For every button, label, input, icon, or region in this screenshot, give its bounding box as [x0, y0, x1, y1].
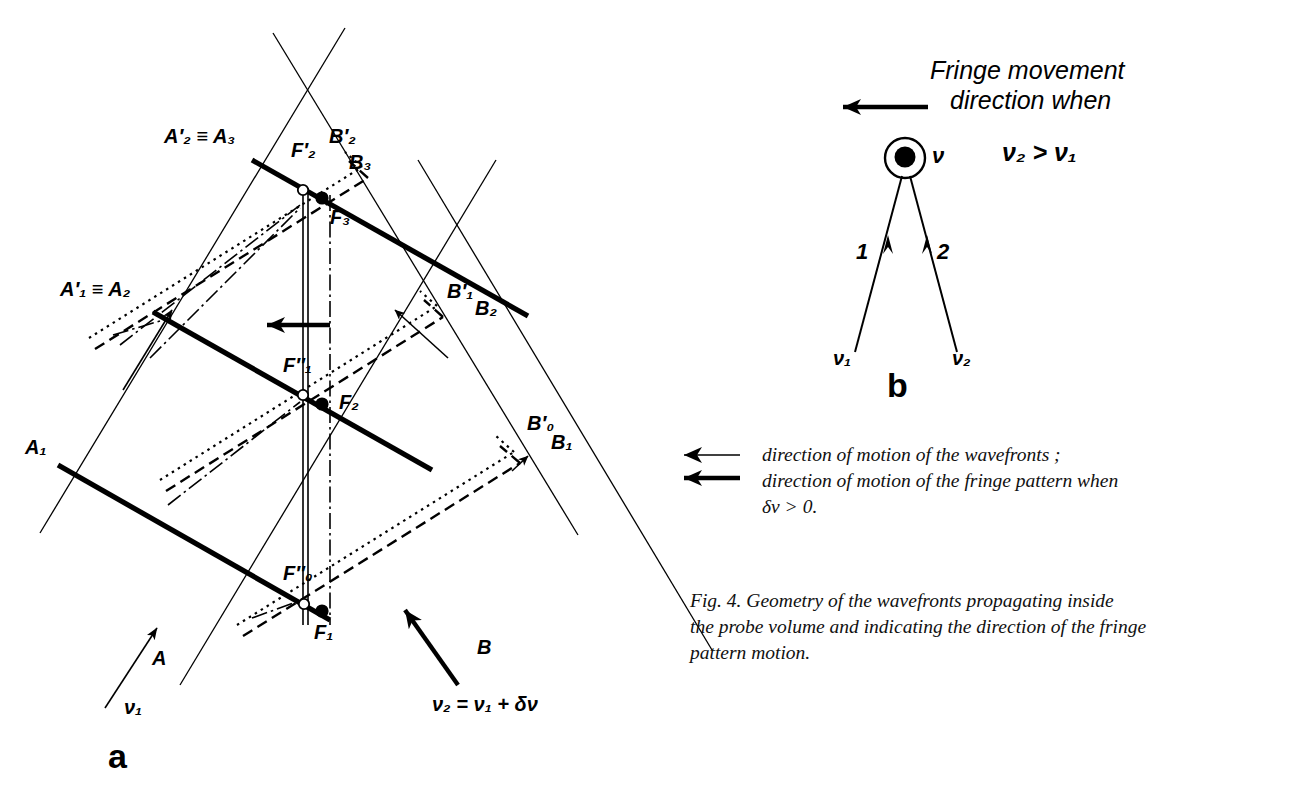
marker-f2-prime: [298, 185, 308, 195]
label-beam2-frequency: ν₂: [952, 348, 971, 368]
label-b0prime: B′₀: [527, 413, 554, 433]
label-scatterer-frequency: ν: [932, 145, 944, 167]
legend-entry-wavefronts: direction of motion of the wavefronts ;: [762, 442, 1061, 468]
marker-f1: [315, 604, 328, 617]
panel-b-scatterer: [885, 138, 925, 178]
panel-b-title-line2: direction when: [950, 85, 1111, 116]
label-a1: A₁: [25, 437, 46, 457]
label-beam2-number: 2: [937, 241, 949, 263]
label-a1prime-eq-a2: A′₁ ≡ A₂: [60, 279, 130, 299]
figure-root: A′₂ ≡ A₃ A′₁ ≡ A₂ A₁ F′₂ B′₂ B₃ F₃ B′₁ B…: [0, 0, 1304, 796]
label-f3: F₃: [330, 207, 350, 227]
label-f1: F₁: [314, 622, 333, 642]
label-b1prime: B′₁: [447, 281, 473, 301]
label-b2: B₂: [475, 298, 497, 318]
label-b3: B₃: [349, 152, 371, 172]
marker-f3: [315, 191, 328, 204]
label-beam-b: B: [477, 637, 491, 657]
label-f2prime: F′₂: [291, 140, 316, 160]
marker-f2: [315, 397, 328, 410]
wavefronts-beam-a: [58, 160, 528, 620]
legend-arrows: [684, 455, 740, 478]
figure-canvas: [0, 0, 1304, 796]
label-b2prime: B′₂: [329, 126, 356, 146]
label-beam1-number: 1: [856, 241, 868, 263]
panel-b-beams: [855, 176, 957, 352]
label-f2: F₂: [339, 392, 359, 412]
panel-a-letter: a: [108, 739, 127, 773]
panel-b-letter: b: [887, 368, 908, 402]
label-f1-doubleprime: F″₁: [283, 355, 312, 375]
panel-b-condition: ν₂ > ν₁: [1002, 137, 1077, 168]
label-beam-b-frequency: ν₂ = ν₁ + δν: [432, 694, 538, 714]
label-beam1-frequency: ν₁: [833, 348, 851, 368]
panel-b-title-line1: Fringe movement: [930, 55, 1125, 86]
label-beam-a-frequency: ν₁: [124, 697, 142, 717]
label-f0-doubleprime: F″₀: [283, 563, 313, 583]
fringe-node-rays: [113, 205, 302, 618]
legend-entry-fringe-pattern: direction of motion of the fringe patter…: [762, 468, 1118, 520]
label-a2prime-eq-a3: A′₂ ≡ A₃: [164, 126, 235, 146]
label-b1: B₁: [551, 432, 572, 452]
beam2-arrowhead: [922, 235, 932, 254]
marker-f1-doubleprime: [298, 390, 308, 400]
label-beam-a: A: [152, 648, 166, 668]
marker-f0-doubleprime: [299, 599, 309, 609]
figure-caption: Fig. 4. Geometry of the wavefronts propa…: [690, 588, 1230, 666]
